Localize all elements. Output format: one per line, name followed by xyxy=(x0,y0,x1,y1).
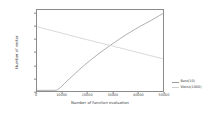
x-axis-tick-label: 10000 xyxy=(56,94,67,97)
x-axis-tick-label: 40000 xyxy=(133,94,144,97)
chart-legend: Best(10)Worst(1000) xyxy=(172,80,202,90)
plot-lines xyxy=(37,10,163,91)
x-axis-tick-label: 50000 xyxy=(159,94,170,97)
x-axis-tick-mark xyxy=(87,92,88,94)
legend-item-label: Worst(1000) xyxy=(181,86,202,90)
x-axis-tick-label: 0 xyxy=(35,94,37,97)
legend-item: Worst(1000) xyxy=(172,86,202,90)
legend-color-swatch xyxy=(172,82,179,83)
x-axis-tick-label: 20000 xyxy=(82,94,93,97)
y-axis-title: Number of vector xyxy=(15,22,19,82)
x-axis-tick-mark xyxy=(164,92,165,94)
x-axis-tick-mark xyxy=(112,92,113,94)
x-axis-tick-label: 30000 xyxy=(107,94,118,97)
legend-color-swatch xyxy=(172,87,179,88)
chart-figure: Number of vector 020040060080010001200 0… xyxy=(0,0,214,115)
x-axis-tick-mark xyxy=(61,92,62,94)
legend-item-label: Best(10) xyxy=(181,80,195,84)
legend-item: Best(10) xyxy=(172,80,202,84)
x-axis-tick-mark xyxy=(138,92,139,94)
series-line-best-10 xyxy=(37,14,163,91)
series-line-worst-1000 xyxy=(37,27,163,59)
plot-area xyxy=(36,9,164,92)
x-axis-tick-mark xyxy=(36,92,37,94)
x-axis-title: Number of function evaluation xyxy=(36,101,164,105)
